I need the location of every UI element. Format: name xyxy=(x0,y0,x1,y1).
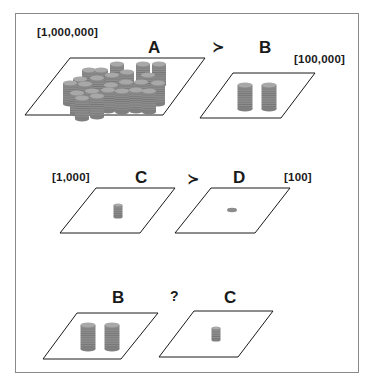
relation-unknown: ? xyxy=(170,288,179,304)
relation-succeeds-2: ≻ xyxy=(187,170,200,188)
single-coin-d xyxy=(227,208,237,212)
letter-label-c: C xyxy=(135,168,147,188)
letter-label-d: D xyxy=(233,168,245,188)
coin-stack-c-mid xyxy=(114,203,123,218)
letter-label-a: A xyxy=(148,38,160,58)
amount-label-c: [1,000] xyxy=(52,171,90,183)
amount-label-d: [100] xyxy=(284,171,312,183)
amount-label-b: [100,000] xyxy=(294,53,345,65)
amount-label-a: [1,000,000] xyxy=(37,26,98,38)
letter-label-b: B xyxy=(259,38,271,58)
plane-b-bottom xyxy=(43,313,158,359)
relation-succeeds-1: ≻ xyxy=(212,38,225,56)
coin-stack-c-bottom xyxy=(212,326,221,341)
letter-label-c-bottom: C xyxy=(224,288,236,308)
plane-b-top xyxy=(200,73,315,118)
letter-label-b-bottom: B xyxy=(112,288,124,308)
